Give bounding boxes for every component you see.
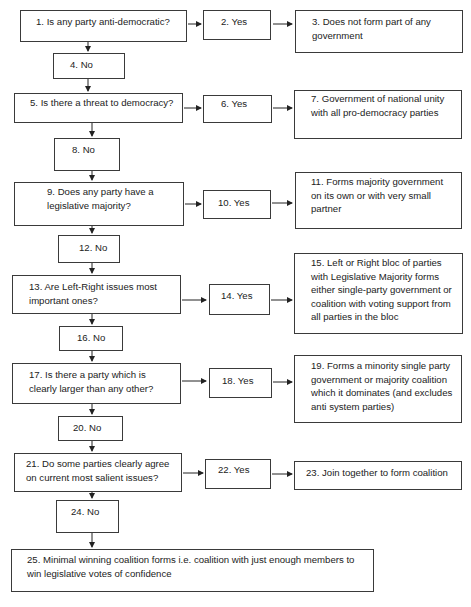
node-4-no: 4. No — [53, 53, 125, 79]
node-10-text: 10. Yes — [218, 196, 249, 210]
node-7-text: 7. Government of national unity with all… — [311, 92, 444, 119]
node-15-outcome: 15. Left or Right bloc of parties with L… — [294, 253, 463, 334]
node-22-text: 22. Yes — [218, 463, 249, 477]
node-3-outcome: 3. Does not form part of any government — [295, 10, 463, 53]
node-8-no: 8. No — [54, 138, 120, 171]
node-2-text: 2. Yes — [221, 15, 247, 29]
node-24-no: 24. No — [56, 500, 119, 533]
node-25-text: 25. Minimal winning coalition forms i.e.… — [27, 553, 354, 580]
node-13-text: 13. Are Left-Right issues most important… — [29, 280, 157, 307]
node-24-text: 24. No — [71, 505, 99, 519]
node-10-yes: 10. Yes — [203, 190, 271, 219]
node-21-question: 21. Do some parties clearly agree on cur… — [14, 453, 182, 492]
node-7-outcome: 7. Government of national unity with all… — [294, 90, 462, 139]
node-12-no: 12. No — [58, 235, 120, 263]
node-14-text: 14. Yes — [221, 289, 252, 303]
node-16-text: 16. No — [77, 331, 105, 345]
node-21-text: 21. Do some parties clearly agree on cur… — [26, 457, 169, 484]
node-20-no: 20. No — [58, 416, 123, 441]
node-17-text: 17. Is there a party which is clearly la… — [29, 368, 153, 395]
node-11-outcome: 11. Forms majority government on its own… — [295, 172, 462, 229]
node-19-outcome: 19. Forms a minority single party govern… — [294, 355, 462, 423]
node-18-yes: 18. Yes — [209, 368, 272, 398]
node-9-question: 9. Does any party have a legislative maj… — [14, 182, 184, 226]
node-9-text: 9. Does any party have a legislative maj… — [47, 185, 154, 212]
node-2-yes: 2. Yes — [203, 10, 271, 40]
node-4-text: 4. No — [70, 58, 93, 72]
node-6-text: 6. Yes — [221, 97, 247, 111]
node-23-text: 23. Join together to form coalition — [306, 466, 448, 480]
node-13-question: 13. Are Left-Right issues most important… — [12, 275, 181, 314]
node-8-text: 8. No — [72, 143, 95, 157]
node-6-yes: 6. Yes — [203, 95, 272, 123]
node-11-text: 11. Forms majority government on its own… — [311, 175, 443, 216]
node-19-text: 19. Forms a minority single party govern… — [311, 359, 452, 413]
node-18-text: 18. Yes — [222, 374, 253, 388]
node-1-question: 1. Is any party anti-democratic? — [20, 10, 187, 42]
node-12-text: 12. No — [79, 241, 107, 255]
node-22-yes: 22. Yes — [205, 459, 271, 489]
node-1-text: 1. Is any party anti-democratic? — [36, 15, 170, 29]
node-25-outcome: 25. Minimal winning coalition forms i.e.… — [11, 549, 374, 592]
node-3-text: 3. Does not form part of any government — [312, 15, 431, 42]
node-5-question: 5. Is there a threat to democracy? — [14, 93, 183, 123]
node-23-outcome: 23. Join together to form coalition — [294, 461, 462, 490]
node-5-text: 5. Is there a threat to democracy? — [30, 96, 173, 110]
node-20-text: 20. No — [73, 421, 101, 435]
node-16-no: 16. No — [59, 326, 123, 351]
node-14-yes: 14. Yes — [209, 284, 270, 315]
node-17-question: 17. Is there a party which is clearly la… — [12, 363, 181, 404]
node-15-text: 15. Left or Right bloc of parties with L… — [311, 256, 452, 324]
